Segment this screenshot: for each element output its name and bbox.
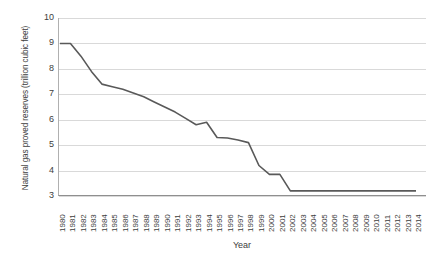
x-tick-label: 2004	[306, 198, 317, 234]
x-tick-label: 2005	[317, 198, 328, 234]
y-tick-label: 3	[38, 190, 54, 200]
x-tick-label: 1980	[55, 198, 66, 234]
x-tick-label: 2011	[380, 198, 391, 234]
x-tick-label: 2003	[296, 198, 307, 234]
x-axis-tick-labels: 1980198119821983198419851986198719881989…	[58, 198, 426, 238]
x-tick-label: 1997	[233, 198, 244, 234]
x-tick-label: 1983	[86, 198, 97, 234]
x-tick-label: 2000	[264, 198, 275, 234]
x-tick-label: 2013	[401, 198, 412, 234]
x-tick-label: 2014	[411, 198, 422, 234]
x-tick-label: 1988	[139, 198, 150, 234]
x-tick-label: 1986	[118, 198, 129, 234]
x-tick-label: 1985	[107, 198, 118, 234]
y-tick-label: 7	[38, 88, 54, 98]
y-tick-label: 5	[38, 139, 54, 149]
plot-area-wrapper	[58, 18, 426, 196]
y-tick-label: 4	[38, 165, 54, 175]
y-tick-label: 9	[38, 37, 54, 47]
x-axis-title: Year	[58, 240, 426, 250]
x-tick-label: 1992	[181, 198, 192, 234]
x-tick-label: 1998	[243, 198, 254, 234]
x-tick-label: 1987	[128, 198, 139, 234]
x-tick-label: 1995	[212, 198, 223, 234]
y-tick-label: 8	[38, 63, 54, 73]
x-tick-label: 2007	[338, 198, 349, 234]
y-tick-label: 6	[38, 114, 54, 124]
x-tick-label: 1996	[223, 198, 234, 234]
x-tick-label: 2010	[369, 198, 380, 234]
x-tick-label: 2008	[348, 198, 359, 234]
x-tick-label-text: 2014	[414, 221, 424, 232]
line-chart: Natural gas proved reserves (trillion cu…	[0, 0, 441, 259]
x-tick-label: 1991	[170, 198, 181, 234]
x-tick-label: 1993	[191, 198, 202, 234]
x-tick-label: 2001	[275, 198, 286, 234]
gridline	[59, 196, 426, 197]
y-axis-title: Natural gas proved reserves (trillion cu…	[18, 8, 34, 208]
x-tick-label: 2006	[327, 198, 338, 234]
x-tick-label: 2002	[285, 198, 296, 234]
x-tick-label: 1981	[65, 198, 76, 234]
x-tick-label: 1984	[97, 198, 108, 234]
y-tick-label: 10	[38, 12, 54, 22]
x-tick-label: 1999	[254, 198, 265, 234]
data-series-line	[58, 18, 426, 196]
x-tick-label: 2009	[359, 198, 370, 234]
y-axis-tick-labels: 345678910	[38, 18, 54, 196]
x-tick-label: 1994	[202, 198, 213, 234]
x-tick-label: 1982	[76, 198, 87, 234]
x-tick-label: 1990	[160, 198, 171, 234]
x-tick-label: 2012	[390, 198, 401, 234]
x-tick-label: 1989	[149, 198, 160, 234]
